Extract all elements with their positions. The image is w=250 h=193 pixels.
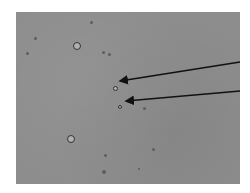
arrow-icon <box>120 62 240 81</box>
annotation-arrows <box>0 0 250 193</box>
arrow-icon <box>126 91 240 101</box>
